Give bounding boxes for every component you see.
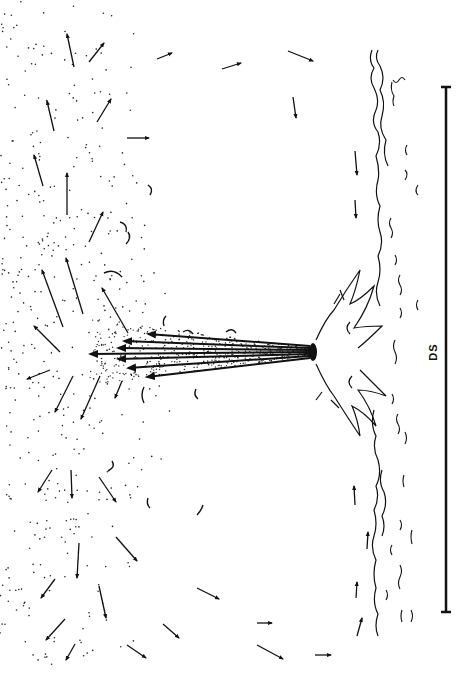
scale-bar-label: DS <box>427 343 439 360</box>
ground-surface <box>370 50 388 636</box>
flow-arrows <box>27 34 368 660</box>
flow-arrow <box>163 624 179 638</box>
flow-arrow <box>222 63 241 69</box>
flow-arrow <box>288 51 313 61</box>
flow-arrow <box>27 370 50 379</box>
flow-arrow <box>67 34 74 67</box>
flow-arrow <box>71 470 72 498</box>
flow-arrow <box>367 532 368 549</box>
flow-arrow <box>34 155 43 186</box>
flow-arrow <box>354 486 355 505</box>
flow-arrow <box>89 43 104 62</box>
jet-stipple <box>89 319 310 383</box>
flow-arrow <box>355 151 357 175</box>
flow-arrow <box>293 97 296 118</box>
flow-arrow <box>55 376 73 412</box>
flow-arrow <box>77 543 79 578</box>
flow-arrow <box>357 618 362 636</box>
volcanic-jet-diagram <box>0 0 462 675</box>
flow-arrow <box>127 645 146 658</box>
flow-arrow <box>38 470 52 492</box>
jet-arrow <box>90 352 310 354</box>
flow-arrow <box>102 288 128 333</box>
volcanic-cone <box>316 270 386 436</box>
flow-arrow <box>47 101 54 131</box>
flow-arrow <box>257 645 283 659</box>
flow-arrow <box>99 586 106 618</box>
flow-arrow <box>356 582 357 598</box>
vent <box>309 343 317 361</box>
flow-arrow <box>66 258 83 314</box>
flow-arrow <box>41 579 55 598</box>
flow-arrow <box>355 200 356 218</box>
flow-arrow <box>66 644 75 660</box>
plume-stipple <box>0 1 180 665</box>
scale-bar <box>441 87 451 612</box>
flow-arrow <box>116 537 137 561</box>
flow-arrow <box>81 376 100 419</box>
flow-arrow <box>34 326 60 352</box>
jet-arrows <box>90 334 310 377</box>
flow-arrow <box>115 381 122 398</box>
flow-arrow <box>157 53 172 59</box>
flow-arrow <box>42 270 63 327</box>
flow-arrow <box>46 619 65 640</box>
vegetation-marks <box>386 78 418 623</box>
flow-arrow <box>97 99 111 122</box>
flow-arrow <box>197 588 219 599</box>
flow-arrow <box>99 477 116 502</box>
flow-arrow <box>89 212 103 242</box>
